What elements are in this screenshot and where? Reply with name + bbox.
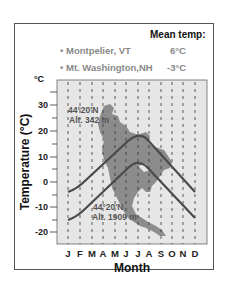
y-tick-minus20: -20 [35, 227, 48, 237]
montpelier-alt: Alt. 342 m [69, 115, 110, 125]
month-feb: F [77, 248, 83, 259]
month-oct: O [168, 248, 175, 259]
month-jun: J [123, 248, 128, 259]
month-nov: N [180, 248, 187, 259]
month-dec: D [192, 248, 199, 259]
month-may: M [111, 248, 119, 259]
y-tick-30: 30 [38, 100, 48, 110]
y-tick-0: 0 [43, 177, 48, 187]
y-tick-20: 20 [38, 126, 48, 136]
y-tick-minus10: -10 [35, 202, 48, 212]
month-jan: J [65, 248, 70, 259]
y-tick-10: 10 [38, 152, 48, 162]
y-axis-title: Temperature (°C) [18, 114, 32, 211]
month-mar: M [88, 248, 96, 259]
month-aug: A [146, 248, 153, 259]
y-ticks [50, 92, 57, 232]
montpelier-lat: 44°20'N [68, 105, 98, 115]
washington-alt: Alt. 1909 m [92, 212, 137, 222]
chart-svg: 30 20 10 0 -10 -20 44°20'N Alt. 342 m 44… [0, 0, 228, 297]
washington-lat: 44°20'N [93, 202, 123, 212]
x-axis-title: Month [114, 261, 150, 275]
month-jul: J [135, 248, 140, 259]
month-apr: A [100, 248, 107, 259]
month-sep: S [158, 248, 164, 259]
